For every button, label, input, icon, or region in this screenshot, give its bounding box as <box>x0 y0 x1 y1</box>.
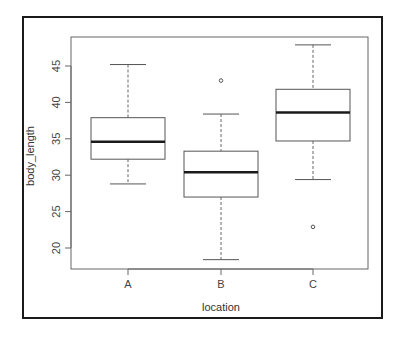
y-axis: 202530354045 <box>50 60 71 254</box>
x-axis: ABC <box>124 269 317 290</box>
box-b <box>184 79 258 260</box>
y-tick-label: 45 <box>50 60 62 72</box>
iqr-box <box>91 118 165 159</box>
boxes <box>91 45 350 260</box>
y-tick-label: 25 <box>50 205 62 217</box>
box-c <box>276 45 350 229</box>
x-tick-label: C <box>309 278 317 290</box>
y-axis-title: body_length <box>24 126 36 186</box>
x-axis-title: location <box>202 301 240 313</box>
boxplot-chart: 202530354045 ABC body_length location <box>0 0 406 337</box>
x-tick-label: A <box>124 278 132 290</box>
outlier-point <box>219 79 223 83</box>
y-tick-label: 20 <box>50 242 62 254</box>
x-tick-label: B <box>217 278 224 290</box>
iqr-box <box>184 151 258 197</box>
y-tick-label: 35 <box>50 133 62 145</box>
y-tick-label: 40 <box>50 96 62 108</box>
iqr-box <box>276 89 350 141</box>
box-a <box>91 65 165 184</box>
outlier-point <box>311 225 315 229</box>
y-tick-label: 30 <box>50 169 62 181</box>
